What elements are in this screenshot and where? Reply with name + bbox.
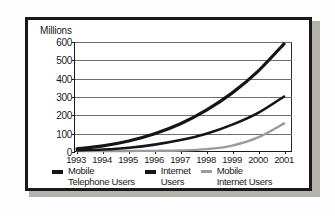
y-tick-label: 600: [56, 37, 72, 48]
chart-screenshot: Millions 0100200300400500600 19931994199…: [0, 0, 335, 216]
series-line: [77, 44, 284, 149]
y-axis-labels: 0100200300400500600: [28, 42, 72, 152]
legend-label-line1: Internet: [161, 166, 191, 177]
x-tick-label: 1997: [170, 154, 190, 165]
x-tick-label: 1998: [196, 154, 216, 165]
legend-label-line2: Telephone Users: [68, 177, 135, 188]
figure-frame: Millions 0100200300400500600 19931994199…: [25, 17, 312, 191]
legend-label-line1: Mobile: [68, 166, 135, 177]
x-tick-label: 1999: [222, 154, 242, 165]
y-tick-label: 400: [56, 73, 72, 84]
x-tick-label: 1996: [144, 154, 164, 165]
x-tick-label: 1994: [92, 154, 112, 165]
legend-item: InternetUsers: [145, 166, 191, 187]
legend-item: MobileInternet Users: [201, 166, 272, 187]
legend-swatch: [201, 170, 212, 173]
x-tick-label: 2001: [274, 154, 294, 165]
y-tick-label: 200: [56, 110, 72, 121]
legend-item: MobileTelephone Users: [52, 166, 135, 187]
legend-label: MobileTelephone Users: [68, 166, 135, 187]
plot-area: [74, 42, 292, 152]
series-lines: [75, 42, 292, 151]
chart-legend: MobileTelephone UsersInternetUsersMobile…: [52, 166, 307, 190]
x-tick-label: 1993: [66, 154, 86, 165]
legend-swatch: [52, 170, 63, 174]
y-tick-label: 500: [56, 55, 72, 66]
legend-label-line1: Mobile: [217, 166, 272, 177]
y-tick-label: 300: [56, 92, 72, 103]
legend-label-line2: Users: [161, 177, 191, 188]
legend-swatch: [145, 170, 156, 174]
legend-label: InternetUsers: [161, 166, 191, 187]
series-line: [77, 123, 284, 151]
y-axis-title: Millions: [40, 25, 72, 36]
legend-label: MobileInternet Users: [217, 166, 272, 187]
x-tick-label: 1995: [118, 154, 138, 165]
legend-label-line2: Internet Users: [217, 177, 272, 188]
y-tick-label: 100: [56, 128, 72, 139]
x-tick-label: 2000: [248, 154, 268, 165]
